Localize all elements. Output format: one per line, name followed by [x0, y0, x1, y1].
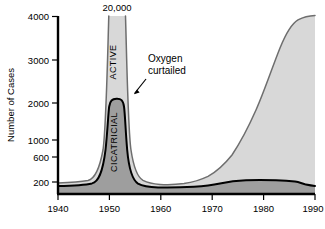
y-axis-title: Number of Cases [5, 68, 16, 142]
chart-container: 4000 3000 2000 1000 600 200 1940 1950 19… [0, 0, 325, 229]
y-tick-label-2000: 2000 [28, 98, 49, 109]
x-tick-label-1960: 1960 [150, 203, 171, 214]
y-tick-label-200: 200 [33, 177, 49, 188]
y-tick-label-600: 600 [33, 152, 49, 163]
y-tick-label-3000: 3000 [28, 55, 49, 66]
oxygen-annotation-line2: curtailed [148, 65, 186, 76]
y-tick-label-1000: 1000 [28, 135, 49, 146]
x-tick-label-1950: 1950 [99, 203, 120, 214]
active-band-label: ACTIVE [108, 45, 118, 80]
x-tick-label-1990: 1990 [302, 203, 323, 214]
peak-value-label: 20,000 [102, 2, 131, 13]
cicatricial-band-label: CICATRICIAL [109, 112, 119, 172]
oxygen-annotation-line1: Oxygen [148, 53, 182, 64]
x-tick-label-1970: 1970 [202, 203, 223, 214]
y-tick-label-4000: 4000 [28, 11, 49, 22]
x-tick-label-1980: 1980 [253, 203, 274, 214]
line-area-chart: 4000 3000 2000 1000 600 200 1940 1950 19… [0, 0, 325, 229]
x-tick-label-1940: 1940 [47, 203, 68, 214]
